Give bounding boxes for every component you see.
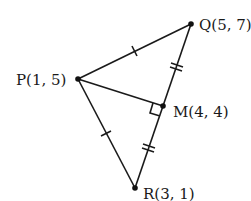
point-q [188, 21, 194, 27]
point-m [160, 103, 166, 109]
label-q: Q(5, 7) [199, 16, 251, 34]
triangle-diagram: Q(5, 7) P(1, 5) M(4, 4) R(3, 1) [0, 0, 251, 201]
label-r: R(3, 1) [143, 185, 195, 201]
point-p [75, 76, 81, 82]
point-r [132, 185, 138, 191]
label-p: P(1, 5) [16, 71, 66, 89]
label-m: M(4, 4) [173, 103, 229, 121]
